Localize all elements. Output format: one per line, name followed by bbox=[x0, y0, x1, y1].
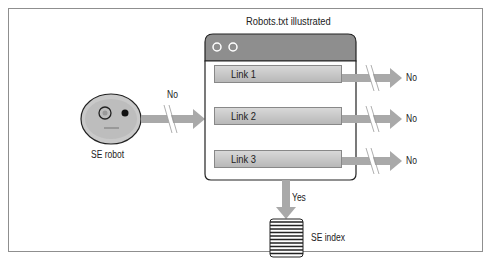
link-label: Link 1 bbox=[231, 68, 256, 80]
link-bar-1[interactable]: Link 1 bbox=[214, 65, 342, 83]
robot-arrow-label: No bbox=[167, 89, 178, 100]
link-bar-2[interactable]: Link 2 bbox=[214, 107, 342, 125]
diagram-title: Robots.txt illustrated bbox=[246, 15, 331, 27]
link-arrows bbox=[342, 64, 402, 175]
robot-arrow-icon bbox=[141, 104, 205, 134]
yes-label: Yes bbox=[292, 192, 306, 203]
database-icon bbox=[270, 219, 303, 257]
robot-label: SE robot bbox=[91, 149, 124, 160]
robot-icon bbox=[81, 94, 141, 144]
diagram-graphics bbox=[0, 0, 493, 269]
link-bar-3[interactable]: Link 3 bbox=[214, 150, 342, 168]
link2-result: No bbox=[406, 113, 417, 124]
link-label: Link 2 bbox=[231, 110, 256, 122]
link3-result: No bbox=[406, 155, 417, 166]
index-label: SE index bbox=[311, 232, 345, 243]
link-label: Link 3 bbox=[231, 153, 256, 165]
link1-result: No bbox=[406, 72, 417, 83]
